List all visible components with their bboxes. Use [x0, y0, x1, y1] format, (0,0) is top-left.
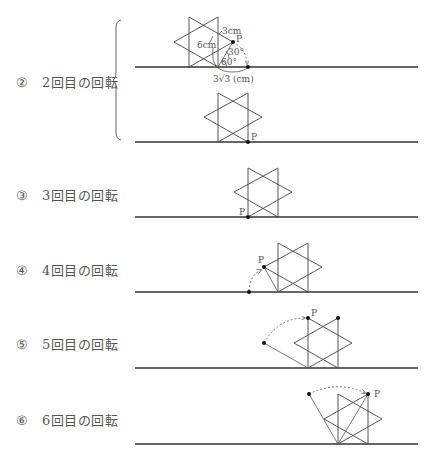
p-label: P [258, 255, 264, 265]
construction-6 [309, 387, 368, 444]
angle-30: 30° [228, 47, 244, 57]
brace [113, 20, 121, 140]
point-p-2a [231, 40, 235, 44]
hexagram-4 [264, 243, 322, 292]
dot-4 [247, 290, 251, 294]
point-p-4 [262, 265, 266, 269]
dot-5b [262, 341, 266, 345]
construction-4 [249, 267, 278, 292]
angle-60: 60° [221, 57, 237, 67]
construction-5 [264, 318, 308, 368]
point-p-3 [246, 215, 250, 219]
dot-6 [307, 392, 311, 396]
p-label: P [239, 207, 245, 217]
baselines [135, 67, 418, 444]
point-p-5 [306, 316, 310, 320]
p-label: P [311, 308, 317, 318]
p-label: P [251, 132, 257, 142]
length-3cm: 3cm [222, 26, 242, 36]
dot-5a [336, 316, 340, 320]
rotation-diagram: P 3cm 6cm 30° 60° 3√3 (cm) P P P P [0, 0, 429, 458]
dot-2a [246, 65, 250, 69]
arc-length: 3√3 (cm) [213, 74, 254, 84]
p-label: P [374, 389, 380, 399]
length-6cm: 6cm [197, 40, 217, 50]
point-p-6 [366, 392, 370, 396]
hexagram-5 [294, 318, 352, 368]
point-p-2b [246, 140, 250, 144]
